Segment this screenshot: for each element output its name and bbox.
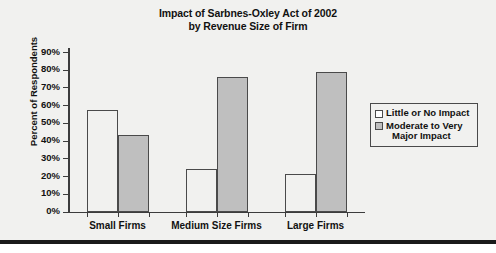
x-axis-tick <box>285 212 286 217</box>
y-axis-tick-label: 30% <box>41 152 60 163</box>
chart-legend: Little or No Impact Moderate to Very Maj… <box>370 103 478 147</box>
x-axis-tick <box>217 212 218 217</box>
y-axis-tick-60: 60% <box>63 105 68 106</box>
y-axis-tick-label: 0% <box>46 205 60 216</box>
x-axis-label-large-firms: Large Firms <box>287 220 344 231</box>
x-axis-label-medium-size-firms: Medium Size Firms <box>171 220 262 231</box>
y-axis-tick-label: 20% <box>41 170 60 181</box>
bar-small-firms-series-1 <box>118 135 149 211</box>
legend-item-little-or-no-impact: Little or No Impact <box>375 108 473 119</box>
y-axis-tick-90: 90% <box>63 52 68 53</box>
legend-label-series-1: Moderate to Very Major Impact <box>386 121 463 142</box>
y-axis-tick-10: 10% <box>63 194 68 195</box>
chart-figure: Impact of Sarbnes-Oxley Act of 2002 by R… <box>0 0 496 240</box>
y-axis-tick-50: 50% <box>63 123 68 124</box>
x-axis-tick <box>248 212 249 217</box>
x-axis-tick <box>87 212 88 217</box>
y-axis-title: Percent of Respondents <box>28 12 39 172</box>
y-axis-tick-40: 40% <box>63 141 68 142</box>
y-axis-tick-label: 70% <box>41 81 60 92</box>
x-axis-tick <box>186 212 187 217</box>
y-axis-tick-label: 10% <box>41 187 60 198</box>
bar-medium-size-firms-series-0 <box>186 169 217 212</box>
y-axis-line <box>68 48 70 213</box>
y-axis-tick-label: 50% <box>41 116 60 127</box>
legend-label-series-0: Little or No Impact <box>386 108 469 119</box>
bar-medium-size-firms-series-1 <box>217 77 248 212</box>
x-axis-tick <box>347 212 348 217</box>
y-axis-tick-label: 60% <box>41 99 60 110</box>
plot-area: 90%80%70%60%50%40%30%20%10%0% Small Firm… <box>68 48 365 213</box>
bar-large-firms-series-0 <box>285 174 316 211</box>
legend-item-moderate-to-very-major-impact: Moderate to Very Major Impact <box>375 121 473 142</box>
chart-title: Impact of Sarbnes-Oxley Act of 2002 by R… <box>0 7 496 32</box>
y-axis-tick-20: 20% <box>63 176 68 177</box>
bar-large-firms-series-1 <box>316 72 347 212</box>
page-bottom-margin <box>0 244 496 253</box>
y-axis-tick-0: 0% <box>63 212 68 213</box>
legend-swatch-icon-series-0 <box>375 110 383 118</box>
bar-small-firms-series-0 <box>87 110 118 211</box>
y-axis-tick-label: 90% <box>41 46 60 57</box>
x-axis-tick <box>149 212 150 217</box>
y-axis-tick-70: 70% <box>63 87 68 88</box>
chart-title-line-1: Impact of Sarbnes-Oxley Act of 2002 <box>159 7 337 19</box>
y-axis-tick-30: 30% <box>63 158 68 159</box>
y-axis-tick-label: 40% <box>41 134 60 145</box>
y-axis-tick-80: 80% <box>63 70 68 71</box>
x-axis-tick <box>118 212 119 217</box>
chart-title-line-2: by Revenue Size of Firm <box>0 20 496 33</box>
y-axis-tick-label: 80% <box>41 63 60 74</box>
x-axis-label-small-firms: Small Firms <box>89 220 146 231</box>
legend-swatch-icon-series-1 <box>375 122 383 130</box>
x-axis-tick <box>316 212 317 217</box>
